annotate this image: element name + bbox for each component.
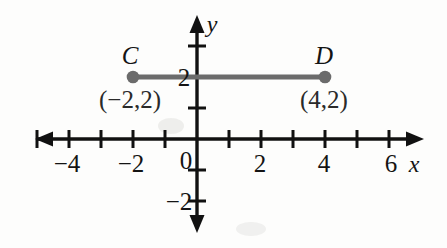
y-axis-arrow-up-icon — [190, 15, 205, 33]
y-axis-name: y — [207, 12, 218, 36]
coordinate-plane-figure: −4 −2 0 2 4 6 2 −2 y x C (−2,2) D (4,2) — [0, 0, 447, 248]
origin-label: 0 — [180, 148, 193, 173]
plot-canvas — [0, 0, 447, 248]
point-d-coordinate-label: (4,2) — [300, 87, 348, 112]
x-axis-label--2: −2 — [118, 151, 145, 176]
y-axis-label--2: −2 — [166, 189, 193, 214]
x-axis-label-2: 2 — [254, 151, 267, 176]
point-c-name-label: C — [122, 43, 139, 68]
point-d-marker — [319, 71, 332, 84]
point-c-marker — [127, 71, 140, 84]
y-axis-label-2: 2 — [178, 65, 191, 90]
x-axis-arrow-right-icon — [406, 132, 424, 147]
x-axis-label--4: −4 — [54, 151, 81, 176]
x-axis-name: x — [409, 152, 420, 176]
x-axis-label-6: 6 — [385, 151, 398, 176]
y-axis-arrow-down-icon — [190, 215, 205, 233]
x-axis-label-4: 4 — [318, 151, 331, 176]
point-d-name-label: D — [315, 43, 333, 68]
point-c-coordinate-label: (−2,2) — [99, 87, 161, 112]
